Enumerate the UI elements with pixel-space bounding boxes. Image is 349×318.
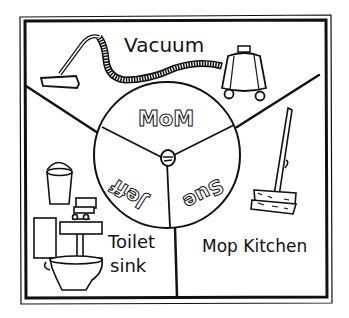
chore-chart: MoM Jeff Sue Vacuum	[0, 0, 349, 318]
chore-label-vacuum: Vacuum	[124, 33, 204, 57]
chore-label-toilet: Toilet	[107, 231, 155, 252]
chore-label-mop-kitchen: Mop Kitchen	[202, 236, 307, 256]
spinner-pin-icon[interactable]	[161, 150, 175, 166]
chore-wheel[interactable]: MoM Jeff Sue	[94, 82, 240, 228]
chore-label-sink: sink	[110, 255, 147, 276]
toilet-sink-bucket-icon	[34, 163, 102, 291]
wheel-segment-mom: MoM	[138, 107, 194, 131]
mop-icon	[251, 108, 296, 214]
